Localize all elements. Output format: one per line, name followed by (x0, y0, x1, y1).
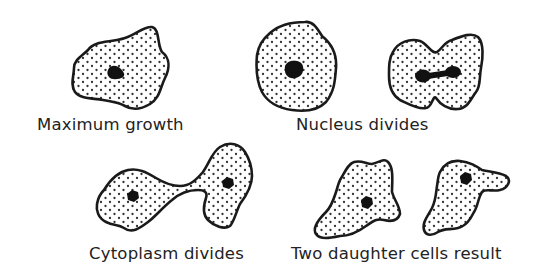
label-nucleus-divides: Nucleus divides (296, 115, 429, 134)
label-two-daughter-cells: Two daughter cells result (291, 244, 502, 263)
label-maximum-growth: Maximum growth (37, 115, 184, 134)
cell-nucleus-divides-round (257, 22, 337, 111)
amoeba-fission-diagram (0, 0, 554, 270)
cell-maximum-growth (72, 27, 168, 109)
cell-cytoplasm-divides (97, 144, 252, 231)
label-cytoplasm-divides: Cytoplasm divides (89, 244, 244, 263)
cell-membrane (315, 160, 400, 238)
cell-membrane (72, 27, 168, 109)
cell-nucleus-divides-dumbbell (389, 35, 483, 109)
daughter-cell-left (315, 160, 400, 238)
cell-membrane (424, 161, 509, 235)
daughter-cell-right (424, 161, 509, 235)
